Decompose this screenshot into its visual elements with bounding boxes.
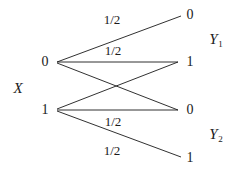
edge-probability-label-2: 1/2 [105, 44, 122, 57]
output-variable-label-y2: Y2 [209, 127, 222, 144]
output-node-y2-1: 1 [187, 151, 194, 165]
input-node-0: 0 [42, 55, 49, 69]
edge-probability-label-1: 1/2 [104, 13, 121, 26]
channel-diagram: X 0 1 0 1 0 1 Y1 Y2 1/2 1/2 1/2 1/2 [0, 0, 243, 175]
output-node-y2-0: 0 [187, 103, 194, 117]
input-node-1: 1 [42, 103, 49, 117]
output-variable-name-y1: Y [209, 31, 217, 47]
input-variable-label: X [13, 81, 22, 96]
output-variable-subscript-y1: 1 [218, 38, 223, 48]
edge-lines-group [0, 0, 243, 175]
edge-x0-to-y2-0 [57, 63, 178, 110]
output-variable-label-y1: Y1 [209, 32, 222, 49]
edge-probability-label-3: 1/2 [105, 115, 122, 128]
edge-probability-label-4: 1/2 [104, 144, 121, 157]
output-variable-subscript-y2: 2 [218, 133, 223, 143]
output-variable-name-y2: Y [209, 126, 217, 142]
output-node-y1-1: 1 [187, 55, 194, 69]
output-node-y1-0: 0 [187, 8, 194, 22]
edge-x1-to-y1-1 [57, 62, 178, 109]
